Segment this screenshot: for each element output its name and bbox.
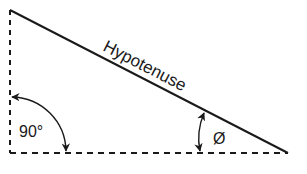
hypotenuse-line [10,10,288,153]
phi-angle-arc [199,113,204,151]
phi-angle-label: Ø [213,130,225,147]
right-angle-label: 90° [19,123,43,140]
triangle-diagram: Hypotenuse 90° Ø [0,0,307,174]
hypotenuse-label: Hypotenuse [100,37,189,95]
